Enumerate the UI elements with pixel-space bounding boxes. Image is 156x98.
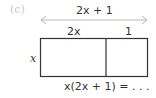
segment-label-1: 1 — [125, 25, 132, 38]
area-rectangle — [41, 39, 148, 77]
segment-label-2x: 2x — [67, 25, 81, 38]
total-width-label: 2x + 1 — [76, 4, 113, 17]
height-label: x — [30, 52, 36, 65]
area-expression: x(2x + 1) = . . . — [64, 80, 150, 93]
width-arrow — [41, 16, 147, 24]
